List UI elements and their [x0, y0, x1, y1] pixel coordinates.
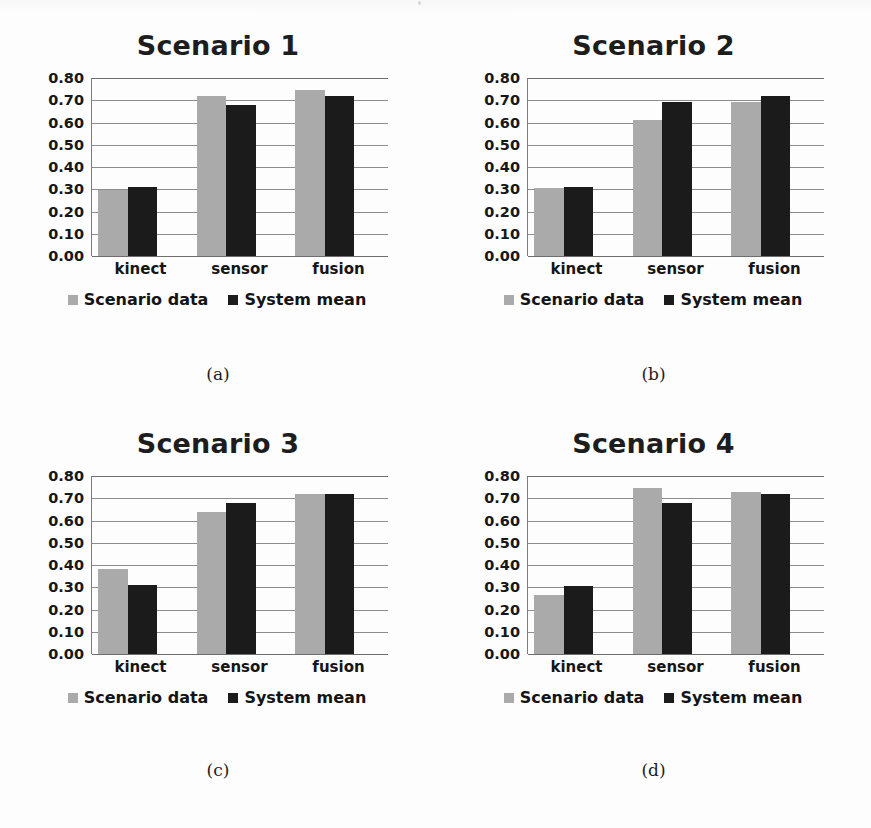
bar-group-fusion — [289, 78, 388, 256]
y-axis-tick-label: 0.60 — [48, 513, 84, 529]
y-axis-tick-label: 0.30 — [484, 181, 520, 197]
x-axis-tick-label: sensor — [626, 260, 725, 278]
bar-groups — [92, 78, 388, 256]
y-axis-tick-label: 0.40 — [48, 159, 84, 175]
y-axis-tick-label: 0.80 — [484, 468, 520, 484]
bar-groups — [528, 476, 824, 654]
y-axis-tick-label: 0.70 — [484, 490, 520, 506]
chart-legend: Scenario data System mean — [478, 688, 828, 707]
bar-sensor-system-mean — [662, 102, 692, 256]
bar-kinect-system-mean — [564, 586, 594, 654]
y-axis: 0.800.700.600.500.400.300.200.100.00 — [478, 476, 524, 654]
y-axis-tick-label: 0.60 — [484, 513, 520, 529]
x-axis-tick-label: kinect — [91, 260, 190, 278]
y-axis-tick-label: 0.70 — [48, 92, 84, 108]
legend-swatch-icon-scenario-data — [68, 693, 78, 703]
bar-kinect-scenario-data — [98, 190, 128, 256]
x-axis-tick-label: kinect — [527, 658, 626, 676]
legend-swatch-icon-system-mean — [228, 693, 238, 703]
legend-label: Scenario data — [84, 688, 209, 707]
x-axis-tick-label: fusion — [289, 260, 388, 278]
bar-kinect-scenario-data — [534, 595, 564, 654]
plot-wrapper: 0.800.700.600.500.400.300.200.100.00 kin… — [42, 78, 392, 270]
legend-swatch-icon-scenario-data — [504, 693, 514, 703]
figure-grid: Scenario 1 0.800.700.600.500.400.300.200… — [0, 0, 871, 828]
bar-sensor-scenario-data — [197, 512, 227, 654]
bar-group-kinect — [92, 476, 191, 654]
legend-label: System mean — [244, 290, 366, 309]
bar-kinect-scenario-data — [98, 569, 128, 654]
bar-group-fusion — [289, 476, 388, 654]
bar-sensor-scenario-data — [633, 120, 663, 256]
x-axis-tick-label: fusion — [289, 658, 388, 676]
bar-fusion-scenario-data — [295, 494, 325, 654]
chart-panel-scenario-3: Scenario 3 0.800.700.600.500.400.300.200… — [0, 414, 436, 828]
x-axis-tick-label: fusion — [725, 658, 824, 676]
bar-group-fusion — [725, 78, 824, 256]
y-axis-tick-label: 0.40 — [48, 557, 84, 573]
gridline — [92, 256, 388, 257]
legend-item-scenario-data: Scenario data — [504, 290, 645, 309]
bar-group-fusion — [725, 476, 824, 654]
legend-swatch-icon-system-mean — [664, 693, 674, 703]
bar-groups — [528, 78, 824, 256]
legend-item-system-mean: System mean — [228, 290, 366, 309]
legend-item-system-mean: System mean — [664, 290, 802, 309]
x-axis-labels: kinectsensorfusion — [91, 658, 388, 676]
legend-label: System mean — [680, 688, 802, 707]
plot-area — [91, 78, 388, 256]
legend-swatch-icon-system-mean — [664, 295, 674, 305]
y-axis-tick-label: 0.10 — [484, 624, 520, 640]
legend-label: System mean — [244, 688, 366, 707]
chart-title: Scenario 1 — [0, 30, 436, 61]
bar-fusion-scenario-data — [295, 90, 325, 256]
bar-group-sensor — [627, 78, 726, 256]
figure-subcaption: (a) — [0, 364, 436, 384]
bar-group-kinect — [528, 78, 627, 256]
x-axis-tick-label: fusion — [725, 260, 824, 278]
bar-group-kinect — [92, 78, 191, 256]
bar-fusion-system-mean — [761, 494, 791, 654]
legend-label: System mean — [680, 290, 802, 309]
x-axis-labels: kinectsensorfusion — [527, 658, 824, 676]
bar-sensor-scenario-data — [633, 488, 663, 654]
bar-sensor-system-mean — [226, 105, 256, 256]
chart-title: Scenario 4 — [436, 428, 871, 459]
bar-sensor-system-mean — [226, 503, 256, 654]
y-axis-tick-label: 0.00 — [484, 248, 520, 264]
legend-item-scenario-data: Scenario data — [68, 688, 209, 707]
bar-groups — [92, 476, 388, 654]
y-axis-tick-label: 0.10 — [484, 226, 520, 242]
gridline — [528, 654, 824, 655]
bar-kinect-scenario-data — [534, 188, 564, 256]
legend-swatch-icon-scenario-data — [504, 295, 514, 305]
y-axis: 0.800.700.600.500.400.300.200.100.00 — [478, 78, 524, 256]
chart-panel-scenario-4: Scenario 4 0.800.700.600.500.400.300.200… — [436, 414, 871, 828]
y-axis-tick-label: 0.70 — [484, 92, 520, 108]
x-axis-labels: kinectsensorfusion — [91, 260, 388, 278]
x-axis-tick-label: kinect — [91, 658, 190, 676]
chart-legend: Scenario data System mean — [42, 688, 392, 707]
y-axis: 0.800.700.600.500.400.300.200.100.00 — [42, 476, 88, 654]
y-axis-tick-label: 0.10 — [48, 226, 84, 242]
bar-group-kinect — [528, 476, 627, 654]
y-axis-tick-label: 0.50 — [484, 137, 520, 153]
legend-swatch-icon-scenario-data — [68, 295, 78, 305]
bar-fusion-system-mean — [761, 96, 791, 256]
y-axis-tick-label: 0.40 — [484, 557, 520, 573]
legend-swatch-icon-system-mean — [228, 295, 238, 305]
plot-area — [527, 476, 824, 654]
figure-subcaption: (d) — [436, 760, 871, 780]
y-axis-tick-label: 0.20 — [484, 602, 520, 618]
chart-legend: Scenario data System mean — [478, 290, 828, 309]
x-axis-tick-label: sensor — [190, 260, 289, 278]
plot-area — [91, 476, 388, 654]
figure-subcaption: (b) — [436, 364, 871, 384]
plot-area — [527, 78, 824, 256]
legend-label: Scenario data — [520, 290, 645, 309]
figure-subcaption: (c) — [0, 760, 436, 780]
plot-wrapper: 0.800.700.600.500.400.300.200.100.00 kin… — [42, 476, 392, 668]
y-axis-tick-label: 0.50 — [48, 137, 84, 153]
bar-fusion-scenario-data — [731, 492, 761, 654]
bar-fusion-scenario-data — [731, 102, 761, 256]
